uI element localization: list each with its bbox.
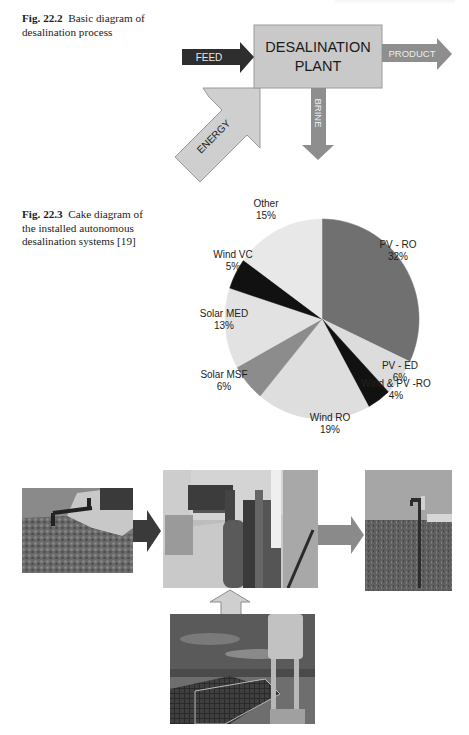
ro-plant-image [163,470,318,588]
pie-chart: PV - RO32%PV - ED6%Wind & PV -RO4%Wind R… [0,190,469,460]
photo-ro-plant-room [163,470,318,588]
pie-label: Wind & PV -RO [361,378,431,389]
pie-value-label: 19% [320,424,340,435]
pie-label: Solar MED [200,308,248,319]
photo-well-pump [22,488,133,573]
pie-label: Other [253,198,279,209]
photo-pv-array [170,614,315,724]
pie-label: PV - RO [379,239,416,250]
pv-array-image [170,614,315,724]
pie-value-label: 32% [388,251,408,262]
pie-value-label: 5% [226,261,241,272]
flow-arrow-1 [133,510,163,552]
desalination-plant-box [254,25,382,88]
brine-arrow-label: BRINE [313,98,324,127]
box-title-line2: PLANT [295,58,342,74]
pie-label: Wind VC [213,249,252,260]
flow-arrow-2 [318,516,366,556]
pie-label: Solar MSF [200,369,247,380]
desalination-process-diagram: ENERGY DESALINATION PLANT FEED PRODUCT B… [0,0,469,200]
pie-value-label: 13% [214,320,234,331]
pie-value-label: 15% [256,210,276,221]
water-tap-image [365,470,452,591]
pie-value-label: 4% [389,390,404,401]
pie-label: PV - ED [382,360,418,371]
box-title-line1: DESALINATION [265,39,370,55]
feed-arrow-label: FEED [196,52,223,63]
pie-label: Wind RO [310,412,351,423]
product-arrow-label: PRODUCT [389,48,436,59]
pie-value-label: 6% [217,381,232,392]
photo-water-tap [365,470,452,591]
well-pump-image [22,488,133,573]
